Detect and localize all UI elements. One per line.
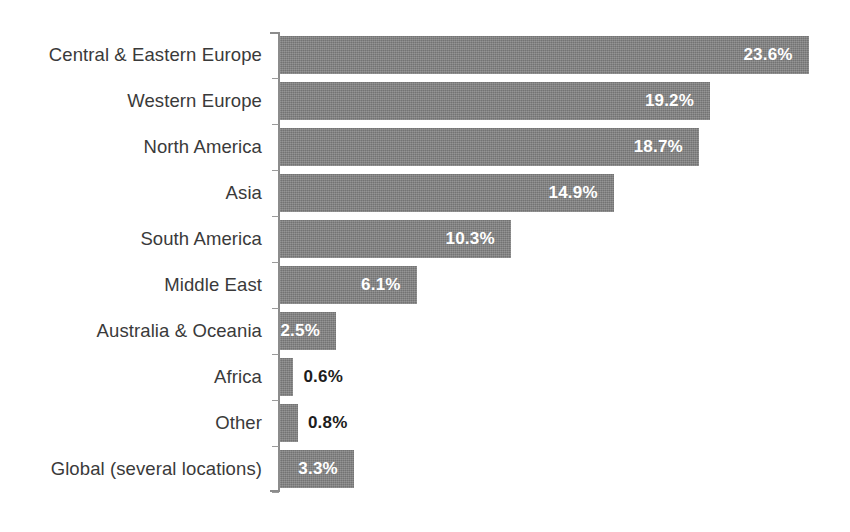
bar-wrapper	[280, 358, 293, 396]
bar-value-label: 6.1%	[361, 275, 417, 295]
category-label: Middle East	[0, 262, 262, 308]
category-label: Other	[0, 400, 262, 446]
category-label: North America	[0, 124, 262, 170]
bar-wrapper: 19.2%	[280, 82, 710, 120]
bar-value-label: 14.9%	[549, 183, 614, 203]
bar-wrapper: 14.9%	[280, 174, 614, 212]
bar-row: Western Europe19.2%	[0, 78, 850, 124]
category-label: Africa	[0, 354, 262, 400]
bar-value-label: 10.3%	[446, 229, 511, 249]
bar-row: South America10.3%	[0, 216, 850, 262]
bar-row: Australia & Oceania2.5%	[0, 308, 850, 354]
bar-value-label: 2.5%	[280, 321, 336, 341]
bar-wrapper	[280, 404, 298, 442]
bar-row: Asia14.9%	[0, 170, 850, 216]
plot-area: Central & Eastern Europe23.6%Western Eur…	[0, 0, 850, 532]
bar-value-label: 18.7%	[634, 137, 699, 157]
category-label: Central & Eastern Europe	[0, 32, 262, 78]
bar[interactable]: 19.2%	[280, 82, 710, 120]
bar-wrapper: 23.6%	[280, 36, 809, 74]
bar-value-label: 19.2%	[645, 91, 710, 111]
category-label: Australia & Oceania	[0, 308, 262, 354]
bar[interactable]: 10.3%	[280, 220, 511, 258]
bar-row: Global (several locations)3.3%	[0, 446, 850, 492]
bar-row: Central & Eastern Europe23.6%	[0, 32, 850, 78]
bar-value-label: 3.3%	[298, 459, 354, 479]
category-label: Western Europe	[0, 78, 262, 124]
bar-value-label: 0.8%	[308, 404, 348, 442]
bar[interactable]: 14.9%	[280, 174, 614, 212]
bar-row: Middle East6.1%	[0, 262, 850, 308]
category-label: Global (several locations)	[0, 446, 262, 492]
bar-value-label: 0.6%	[303, 358, 343, 396]
bar-row: North America18.7%	[0, 124, 850, 170]
bar[interactable]	[280, 358, 293, 396]
bar-value-label: 23.6%	[743, 45, 808, 65]
category-label: South America	[0, 216, 262, 262]
category-label: Asia	[0, 170, 262, 216]
bar-row: Africa0.6%	[0, 354, 850, 400]
bar[interactable]: 23.6%	[280, 36, 809, 74]
bar[interactable]: 3.3%	[280, 450, 354, 488]
bar[interactable]: 2.5%	[280, 312, 336, 350]
bar[interactable]: 18.7%	[280, 128, 699, 166]
bar-wrapper: 10.3%	[280, 220, 511, 258]
bar[interactable]	[280, 404, 298, 442]
bar-wrapper: 6.1%	[280, 266, 417, 304]
bar-chart: Central & Eastern Europe23.6%Western Eur…	[0, 0, 850, 532]
bar-wrapper: 3.3%	[280, 450, 354, 488]
bar-row: Other0.8%	[0, 400, 850, 446]
bar-wrapper: 2.5%	[280, 312, 336, 350]
axis-tick	[272, 492, 279, 493]
bar-wrapper: 18.7%	[280, 128, 699, 166]
bar[interactable]: 6.1%	[280, 266, 417, 304]
